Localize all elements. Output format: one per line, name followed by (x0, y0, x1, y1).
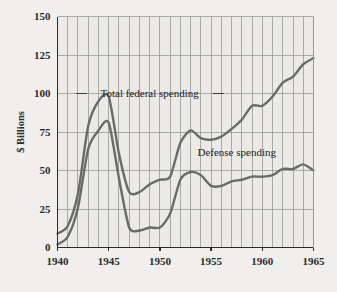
annotation-total-federal-spending: Total federal spending (101, 87, 200, 99)
y-tick-label: 50 (40, 164, 52, 176)
y-tick-label: 25 (40, 203, 52, 215)
x-tick-label: 1940 (47, 255, 70, 267)
y-tick-label: 150 (34, 10, 51, 22)
y-tick-label: 0 (45, 241, 51, 253)
chart-figure: 194019451950195519601965 025507510012515… (0, 0, 337, 292)
y-axis-title: $ Billions (15, 111, 26, 153)
x-tick-label: 1945 (98, 255, 121, 267)
y-tick-label: 100 (34, 87, 51, 99)
spending-line-chart: 194019451950195519601965 025507510012515… (0, 0, 337, 292)
chart-canvas: 194019451950195519601965 025507510012515… (0, 0, 337, 292)
y-tick-label: 75 (40, 126, 52, 138)
annotation-defense-spending: Defense spending (197, 146, 276, 158)
x-tick-label: 1950 (149, 255, 172, 267)
x-tick-label: 1955 (200, 255, 223, 267)
y-axis-title-text: $ Billions (15, 111, 26, 153)
y-tick-label: 125 (34, 49, 51, 61)
x-tick-label: 1960 (251, 255, 274, 267)
x-tick-label: 1965 (303, 255, 326, 267)
